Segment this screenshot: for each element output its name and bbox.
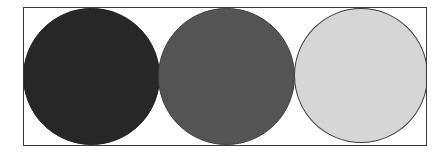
circle-light — [294, 8, 427, 143]
figure-frame — [23, 7, 427, 146]
circle-medium — [158, 8, 295, 145]
circle-dark — [23, 8, 160, 145]
